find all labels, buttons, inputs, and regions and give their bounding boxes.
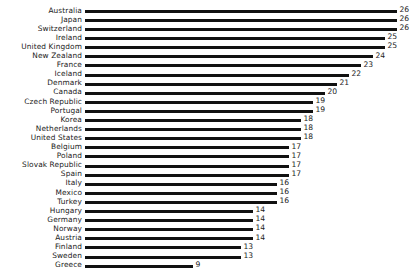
bar-container bbox=[85, 183, 277, 186]
bar bbox=[85, 128, 301, 131]
value-label: 18 bbox=[304, 132, 314, 141]
category-label: Sweden bbox=[0, 251, 82, 260]
bar-container bbox=[85, 228, 253, 231]
bar bbox=[85, 28, 397, 31]
bar bbox=[85, 137, 301, 140]
category-label: Ireland bbox=[0, 33, 82, 42]
category-label: New Zealand bbox=[0, 51, 82, 60]
bar-container bbox=[85, 192, 277, 195]
category-label: Austria bbox=[0, 233, 82, 242]
value-label: 13 bbox=[244, 242, 254, 251]
bar-container bbox=[85, 74, 349, 77]
category-label: United States bbox=[0, 133, 82, 142]
bar bbox=[85, 110, 313, 113]
bar-container bbox=[85, 137, 301, 140]
value-label: 16 bbox=[280, 196, 290, 205]
bar-container bbox=[85, 165, 289, 168]
bar-container bbox=[85, 55, 373, 58]
category-label: Germany bbox=[0, 215, 82, 224]
bar bbox=[85, 219, 253, 222]
value-label: 17 bbox=[292, 142, 302, 151]
bar-container bbox=[85, 46, 385, 49]
category-label: Czech Republic bbox=[0, 97, 82, 106]
category-label: Korea bbox=[0, 115, 82, 124]
category-label: Italy bbox=[0, 178, 82, 187]
bar bbox=[85, 228, 253, 231]
chart-rows: Australia26Japan26Switzerland26Ireland25… bbox=[0, 0, 417, 278]
bar bbox=[85, 46, 385, 49]
value-label: 25 bbox=[388, 41, 398, 50]
value-label: 9 bbox=[196, 260, 201, 269]
value-label: 14 bbox=[256, 214, 266, 223]
bar bbox=[85, 19, 397, 22]
value-label: 22 bbox=[352, 69, 362, 78]
bar bbox=[85, 119, 301, 122]
category-label: Spain bbox=[0, 169, 82, 178]
bar-container bbox=[85, 256, 241, 259]
bar bbox=[85, 74, 349, 77]
bar-container bbox=[85, 19, 397, 22]
category-label: Hungary bbox=[0, 206, 82, 215]
value-label: 17 bbox=[292, 151, 302, 160]
bar bbox=[85, 210, 253, 213]
bar-container bbox=[85, 265, 193, 268]
bar-container bbox=[85, 201, 277, 204]
category-label: Poland bbox=[0, 151, 82, 160]
category-label: Turkey bbox=[0, 197, 82, 206]
bar bbox=[85, 55, 373, 58]
value-label: 16 bbox=[280, 178, 290, 187]
value-label: 24 bbox=[376, 51, 386, 60]
bar-container bbox=[85, 128, 301, 131]
bar-container bbox=[85, 246, 241, 249]
category-label: Canada bbox=[0, 87, 82, 96]
bar-container bbox=[85, 37, 385, 40]
bar-container bbox=[85, 101, 313, 104]
value-label: 16 bbox=[280, 187, 290, 196]
bar-container bbox=[85, 83, 337, 86]
bar bbox=[85, 183, 277, 186]
bar bbox=[85, 37, 385, 40]
bar bbox=[85, 155, 289, 158]
bar bbox=[85, 92, 325, 95]
value-label: 18 bbox=[304, 114, 314, 123]
value-label: 20 bbox=[328, 87, 338, 96]
bar bbox=[85, 256, 241, 259]
value-label: 26 bbox=[400, 5, 410, 14]
bar-container bbox=[85, 237, 253, 240]
category-label: Netherlands bbox=[0, 124, 82, 133]
bar-container bbox=[85, 92, 325, 95]
category-label: United Kingdom bbox=[0, 42, 82, 51]
bar-container bbox=[85, 28, 397, 31]
value-label: 26 bbox=[400, 23, 410, 32]
value-label: 14 bbox=[256, 223, 266, 232]
value-label: 25 bbox=[388, 32, 398, 41]
bar-container bbox=[85, 64, 361, 67]
bar bbox=[85, 146, 289, 149]
horizontal-bar-chart: Australia26Japan26Switzerland26Ireland25… bbox=[0, 0, 417, 278]
bar-container bbox=[85, 146, 289, 149]
category-label: Greece bbox=[0, 260, 82, 269]
bar bbox=[85, 83, 337, 86]
bar bbox=[85, 10, 397, 13]
category-label: Denmark bbox=[0, 78, 82, 87]
bar bbox=[85, 201, 277, 204]
bar bbox=[85, 101, 313, 104]
category-label: Finland bbox=[0, 242, 82, 251]
bar bbox=[85, 237, 253, 240]
category-label: Belgium bbox=[0, 142, 82, 151]
value-label: 19 bbox=[316, 96, 326, 105]
category-label: Australia bbox=[0, 6, 82, 15]
value-label: 19 bbox=[316, 105, 326, 114]
bar bbox=[85, 192, 277, 195]
category-label: Japan bbox=[0, 15, 82, 24]
category-label: Switzerland bbox=[0, 24, 82, 33]
bar-container bbox=[85, 10, 397, 13]
value-label: 14 bbox=[256, 205, 266, 214]
bar-container bbox=[85, 119, 301, 122]
bar bbox=[85, 265, 193, 268]
bar bbox=[85, 174, 289, 177]
category-label: Iceland bbox=[0, 69, 82, 78]
value-label: 26 bbox=[400, 14, 410, 23]
bar bbox=[85, 64, 361, 67]
value-label: 13 bbox=[244, 251, 254, 260]
